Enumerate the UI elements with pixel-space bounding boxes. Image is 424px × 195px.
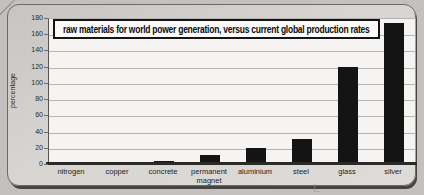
y-tick-label-0: 0: [21, 160, 43, 168]
y-tick-label-60: 60: [21, 111, 43, 119]
y-tick-mark-160: [44, 34, 48, 35]
y-tick-mark-40: [44, 132, 48, 133]
y-axis-label: percentage: [9, 61, 16, 121]
y-tick-mark-60: [44, 115, 48, 116]
bar-glass: [338, 67, 358, 164]
y-tick-label-120: 120: [21, 63, 43, 71]
gridline-140: [49, 51, 415, 52]
y-tick-label-160: 160: [21, 30, 43, 38]
scanned-figure: percentage raw materials for world power…: [0, 0, 424, 195]
gridline-100: [49, 84, 415, 85]
chart-card: percentage raw materials for world power…: [7, 4, 416, 186]
chart-title-box: raw materials for world power generation…: [53, 19, 380, 39]
gridline-20: [49, 149, 415, 150]
gridline-80: [49, 100, 415, 101]
gridline-120: [49, 68, 415, 69]
y-tick-label-180: 180: [21, 14, 43, 22]
y-tick-mark-180: [44, 18, 48, 19]
gridline-40: [49, 133, 415, 134]
y-tick-label-100: 100: [21, 79, 43, 87]
x-tick-label-glass: glass: [321, 168, 373, 177]
y-tick-mark-0: [44, 164, 48, 165]
scan-artifact-mark: [313, 184, 321, 193]
plot-area: [48, 18, 416, 164]
y-tick-mark-100: [44, 83, 48, 84]
gridline-60: [49, 116, 415, 117]
y-tick-label-40: 40: [21, 128, 43, 136]
x-tick-label-nitrogen: nitrogen: [45, 168, 97, 177]
x-tick-label-silver: silver: [367, 168, 419, 177]
x-tick-label-aluminium: aluminium: [229, 168, 281, 177]
y-tick-mark-140: [44, 50, 48, 51]
y-tick-label-140: 140: [21, 46, 43, 54]
chart-title: raw materials for world power generation…: [63, 24, 369, 35]
x-tick-label-permanent-magnet: permanent magnet: [183, 168, 235, 185]
y-tick-mark-80: [44, 99, 48, 100]
bar-silver: [384, 23, 404, 164]
x-tick-label-concrete: concrete: [137, 168, 189, 177]
bar-steel: [292, 139, 312, 164]
y-tick-mark-120: [44, 67, 48, 68]
x-axis-line: [46, 162, 417, 165]
y-tick-mark-20: [44, 148, 48, 149]
y-tick-label-20: 20: [21, 144, 43, 152]
x-tick-label-copper: copper: [91, 168, 143, 177]
y-tick-label-80: 80: [21, 95, 43, 103]
x-tick-label-steel: steel: [275, 168, 327, 177]
